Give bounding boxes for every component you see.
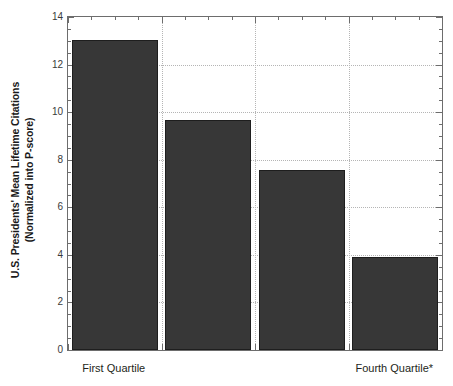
tick-minor-top	[419, 17, 420, 20]
tick-minor-top	[232, 17, 233, 20]
tick-minor-left	[68, 148, 71, 149]
tick-minor-left	[68, 76, 71, 77]
tick-minor-right	[439, 231, 442, 232]
x-axis-tick-label: First Quartile	[82, 362, 145, 374]
tick-major-top	[68, 17, 69, 23]
x-axis-tick-labels: First QuartileFourth Quartile*	[67, 355, 443, 385]
tick-minor-top	[278, 17, 279, 20]
tick-major-bottom	[162, 344, 163, 350]
tick-minor-left	[68, 41, 71, 42]
bar	[259, 170, 345, 350]
bar	[72, 40, 158, 350]
tick-minor-right	[439, 41, 442, 42]
tick-minor-right	[439, 279, 442, 280]
y-axis-tick-label: 2	[33, 296, 63, 307]
tick-minor-right	[439, 100, 442, 101]
bar	[165, 120, 251, 350]
tick-minor-right	[439, 314, 442, 315]
tick-minor-left	[68, 338, 71, 339]
plot-area	[67, 16, 443, 351]
tick-minor-right	[439, 184, 442, 185]
tick-minor-left	[68, 124, 71, 125]
tick-minor-right	[439, 172, 442, 173]
tick-major-right	[436, 160, 442, 161]
tick-major-bottom	[349, 344, 350, 350]
tick-minor-right	[439, 148, 442, 149]
tick-minor-right	[439, 76, 442, 77]
y-axis-tick-label: 6	[33, 201, 63, 212]
y-axis-tick-label: 14	[33, 11, 63, 22]
tick-major-top	[349, 17, 350, 23]
tick-minor-left	[68, 219, 71, 220]
tick-minor-right	[439, 326, 442, 327]
y-axis-title-line-1: U.S. Presidents' Mean Lifetime Citations	[9, 82, 23, 278]
tick-minor-top	[138, 17, 139, 20]
tick-minor-left	[68, 291, 71, 292]
tick-minor-top	[302, 17, 303, 20]
tick-minor-right	[439, 29, 442, 30]
tick-minor-left	[68, 267, 71, 268]
tick-major-left	[68, 350, 74, 351]
tick-major-bottom	[255, 344, 256, 350]
tick-major-top	[442, 17, 443, 23]
tick-minor-left	[68, 172, 71, 173]
tick-major-top	[255, 17, 256, 23]
tick-minor-right	[439, 243, 442, 244]
tick-major-right	[436, 350, 442, 351]
tick-minor-right	[439, 136, 442, 137]
tick-minor-top	[208, 17, 209, 20]
tick-minor-left	[68, 326, 71, 327]
tick-minor-right	[439, 291, 442, 292]
gridline-vertical	[349, 17, 350, 350]
gridline-vertical	[162, 17, 163, 350]
tick-minor-left	[68, 195, 71, 196]
tick-minor-top	[395, 17, 396, 20]
tick-minor-left	[68, 88, 71, 89]
tick-minor-left	[68, 243, 71, 244]
tick-minor-left	[68, 279, 71, 280]
tick-minor-right	[439, 219, 442, 220]
tick-minor-right	[439, 267, 442, 268]
tick-minor-right	[439, 53, 442, 54]
tick-minor-right	[439, 88, 442, 89]
y-axis-tick-label: 10	[33, 106, 63, 117]
y-axis-tick-label: 12	[33, 58, 63, 69]
tick-minor-right	[439, 338, 442, 339]
tick-minor-left	[68, 29, 71, 30]
tick-minor-left	[68, 53, 71, 54]
tick-minor-top	[185, 17, 186, 20]
tick-major-right	[436, 112, 442, 113]
tick-major-top	[162, 17, 163, 23]
y-axis-tick-label: 8	[33, 153, 63, 164]
tick-minor-right	[439, 195, 442, 196]
tick-minor-left	[68, 231, 71, 232]
tick-minor-left	[68, 100, 71, 101]
tick-minor-top	[372, 17, 373, 20]
tick-minor-top	[325, 17, 326, 20]
tick-minor-top	[91, 17, 92, 20]
y-axis-tick-label: 0	[33, 344, 63, 355]
y-axis-tick-labels: 02468101214	[32, 0, 63, 386]
tick-major-bottom	[68, 344, 69, 350]
bar-chart-figure: U.S. Presidents' Mean Lifetime Citations…	[0, 0, 453, 386]
tick-major-right	[436, 207, 442, 208]
gridline-vertical	[255, 17, 256, 350]
bar	[352, 257, 438, 350]
tick-minor-left	[68, 184, 71, 185]
tick-minor-right	[439, 124, 442, 125]
tick-major-bottom	[442, 344, 443, 350]
tick-minor-left	[68, 136, 71, 137]
tick-minor-left	[68, 314, 71, 315]
tick-major-right	[436, 65, 442, 66]
x-axis-tick-label: Fourth Quartile*	[355, 362, 433, 374]
y-axis-tick-label: 4	[33, 248, 63, 259]
tick-minor-top	[115, 17, 116, 20]
